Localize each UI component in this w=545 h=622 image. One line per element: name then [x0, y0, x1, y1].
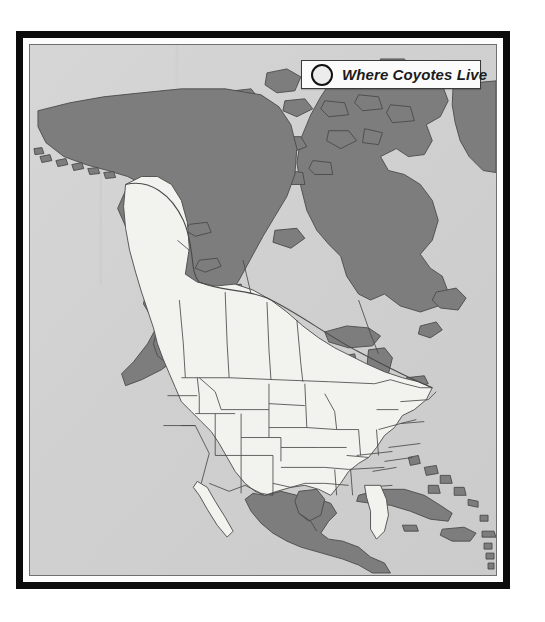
circle-outline-icon — [311, 64, 333, 86]
screenshot-root: Where Coyotes Live — [0, 0, 545, 622]
arctic-island-o — [309, 161, 333, 175]
map-mat: Where Coyotes Live — [23, 38, 503, 582]
north-america-coyote-range-map — [30, 45, 496, 575]
legend-label: Where Coyotes Live — [342, 66, 487, 83]
map-legend: Where Coyotes Live — [301, 60, 481, 89]
map-picture-frame: Where Coyotes Live — [16, 31, 510, 589]
jamaica-island — [402, 525, 418, 531]
puerto-rico-island — [482, 531, 496, 537]
arctic-island-i — [386, 105, 414, 123]
map-plate: Where Coyotes Live — [29, 44, 497, 576]
